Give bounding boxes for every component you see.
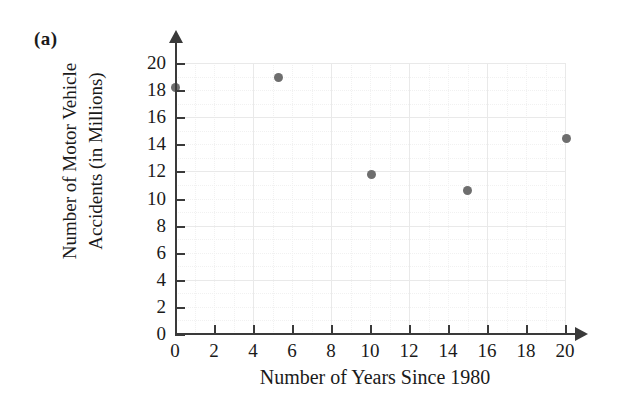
gridline-horizontal-minor xyxy=(175,307,565,308)
scatter-plot-figure: (a) 02468101214161820 02468101214161820 … xyxy=(0,0,633,414)
data-point xyxy=(463,186,472,195)
gridline-horizontal-minor xyxy=(175,212,565,213)
y-axis-tick xyxy=(176,171,185,173)
x-axis-tick-label: 2 xyxy=(197,341,231,361)
y-axis-tick-label: 2 xyxy=(136,297,166,316)
x-axis-tick-label: 6 xyxy=(275,341,309,361)
gridline-horizontal-minor xyxy=(175,320,565,321)
y-axis-tick xyxy=(176,280,185,282)
y-axis-tick xyxy=(176,226,185,228)
gridline-horizontal-minor xyxy=(175,266,565,267)
y-axis-tick-label: 12 xyxy=(136,161,166,180)
x-axis-tick xyxy=(409,325,411,334)
y-axis-title-line-1: Number of Motor Vehicle xyxy=(57,16,83,306)
y-axis-tick-label: 10 xyxy=(136,189,166,208)
x-axis-arrow-icon xyxy=(575,327,588,341)
x-axis-tick xyxy=(253,325,255,334)
gridline-horizontal-minor xyxy=(175,104,565,105)
gridline-horizontal-major xyxy=(175,280,565,281)
x-axis-tick xyxy=(526,325,528,334)
y-axis-title: Number of Motor Vehicle Accidents (in Mi… xyxy=(57,16,109,306)
y-axis-title-line-2: Accidents (in Millions) xyxy=(83,16,109,306)
data-point xyxy=(562,134,571,143)
y-axis-tick-label: 14 xyxy=(136,134,166,153)
x-axis-tick-label: 4 xyxy=(236,341,270,361)
x-axis-line xyxy=(175,333,577,335)
gridline-horizontal-minor xyxy=(175,185,565,186)
y-axis-tick xyxy=(176,253,185,255)
x-axis-title: Number of Years Since 1980 xyxy=(175,366,575,389)
y-axis-tick xyxy=(176,117,185,119)
gridline-horizontal-major xyxy=(175,117,565,118)
gridline-horizontal-minor xyxy=(175,158,565,159)
x-axis-tick xyxy=(487,325,489,334)
y-axis-tick-label: 6 xyxy=(136,243,166,262)
gridline-horizontal-minor xyxy=(175,131,565,132)
x-axis-tick xyxy=(370,325,372,334)
gridline-horizontal-minor xyxy=(175,239,565,240)
gridline-horizontal-minor xyxy=(175,77,565,78)
x-axis-tick-label: 18 xyxy=(509,341,543,361)
part-label: (a) xyxy=(34,28,58,50)
gridline-horizontal-minor xyxy=(175,144,565,145)
y-axis-tick-label: 16 xyxy=(136,107,166,126)
x-axis-tick-label: 10 xyxy=(353,341,387,361)
x-axis-tick-label: 8 xyxy=(314,341,348,361)
gridline-horizontal-minor xyxy=(175,90,565,91)
data-point xyxy=(274,73,283,82)
y-axis-tick-label: 20 xyxy=(136,53,166,72)
y-axis-line xyxy=(175,40,177,336)
y-axis-arrow-icon xyxy=(169,30,183,43)
plot-area xyxy=(175,63,565,334)
gridline-horizontal-major xyxy=(175,226,565,227)
y-axis-tick-label: 4 xyxy=(136,270,166,289)
x-axis-tick-label: 16 xyxy=(470,341,504,361)
data-point xyxy=(367,170,376,179)
y-axis-tick xyxy=(176,334,185,336)
x-axis-tick-label: 14 xyxy=(431,341,465,361)
y-axis-tick xyxy=(176,307,185,309)
y-axis-tick xyxy=(176,199,185,201)
y-axis-tick-label: 18 xyxy=(136,80,166,99)
x-axis-tick-label: 0 xyxy=(158,341,192,361)
y-axis-tick xyxy=(176,63,185,65)
gridline-horizontal-minor xyxy=(175,253,565,254)
x-axis-tick xyxy=(448,325,450,334)
gridline-horizontal-major xyxy=(175,63,565,64)
gridline-vertical-major xyxy=(565,63,566,334)
x-axis-tick-label: 12 xyxy=(392,341,426,361)
x-axis-tick xyxy=(331,325,333,334)
gridline-horizontal-minor xyxy=(175,293,565,294)
y-axis-tick-label: 8 xyxy=(136,216,166,235)
x-axis-tick-label: 20 xyxy=(548,341,582,361)
y-axis-tick xyxy=(176,90,185,92)
x-axis-tick xyxy=(565,325,567,334)
x-axis-tick xyxy=(214,325,216,334)
y-axis-tick xyxy=(176,144,185,146)
x-axis-tick xyxy=(292,325,294,334)
gridline-horizontal-minor xyxy=(175,199,565,200)
